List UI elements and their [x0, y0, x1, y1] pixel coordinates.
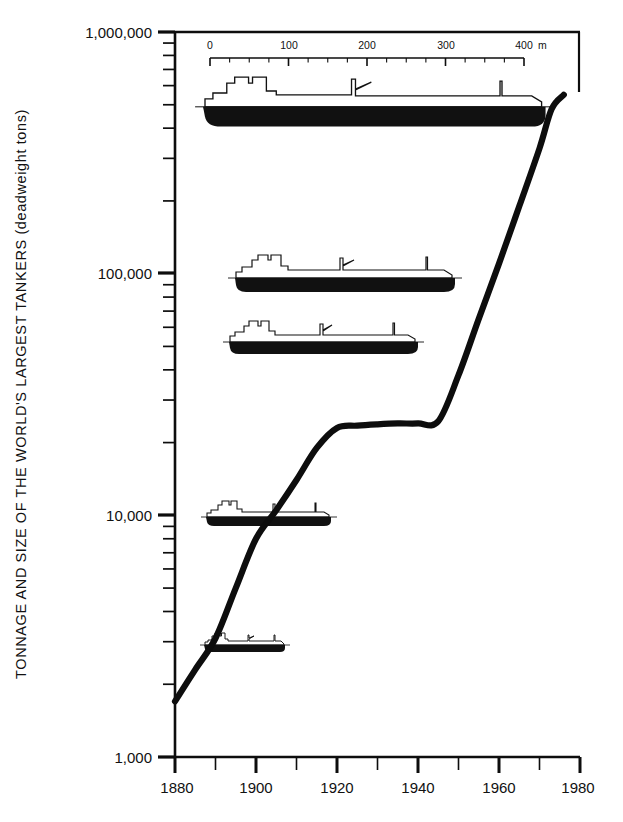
scale-label-100: 100 — [280, 39, 298, 51]
scale-label-0: 0 — [207, 39, 213, 51]
y-tick-label-10000: 10,000 — [106, 507, 152, 524]
scale-label-300: 300 — [437, 39, 455, 51]
y-tick-label-1000000: 1,000,000 — [85, 24, 152, 41]
ship-hull — [235, 278, 455, 292]
chart-figure: TONNAGE AND SIZE OF THE WORLD'S LARGEST … — [0, 0, 623, 822]
ship-hull — [229, 342, 418, 354]
x-tick-label-1940: 1940 — [401, 779, 434, 796]
ship-hull — [203, 107, 546, 127]
scale-label-400: 400 — [515, 39, 533, 51]
x-tick-label-1880: 1880 — [160, 779, 193, 796]
y-axis-title: TONNAGE AND SIZE OF THE WORLD'S LARGEST … — [13, 109, 29, 679]
ship-hull — [204, 645, 285, 652]
y-tick-label-100000: 100,000 — [98, 265, 152, 282]
x-tick-label-1900: 1900 — [239, 779, 272, 796]
x-tick-label-1920: 1920 — [320, 779, 353, 796]
x-tick-label-1960: 1960 — [482, 779, 515, 796]
scale-label-200: 200 — [358, 39, 376, 51]
ship-silhouette-tanker-50k — [223, 321, 424, 354]
scale-label-unit: m — [538, 39, 547, 51]
tanker-tonnage-chart: TONNAGE AND SIZE OF THE WORLD'S LARGEST … — [0, 0, 623, 822]
x-tick-label-1980: 1980 — [561, 779, 594, 796]
y-tick-label-1000: 1,000 — [114, 749, 152, 766]
